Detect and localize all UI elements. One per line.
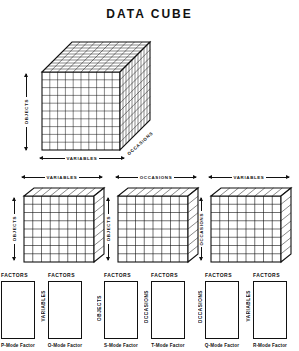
factor-6-header: FACTORS bbox=[253, 272, 280, 278]
factor-2-side-label: VARIABLES bbox=[41, 290, 46, 322]
factor-6-side-label: VARIABLES bbox=[246, 290, 251, 322]
factor-2-header: FACTORS bbox=[48, 272, 75, 278]
slice-panels-graphic bbox=[24, 188, 291, 262]
slice-1-top-axis: VARIABLES bbox=[22, 175, 102, 180]
factor-4-matrix bbox=[151, 281, 185, 339]
slice-3-top-label: VARIABLES bbox=[234, 175, 265, 180]
slice-3-side-axis: OCCASIONS bbox=[199, 198, 204, 260]
factor-1-matrix bbox=[1, 281, 35, 339]
slice-3-top-axis: VARIABLES bbox=[209, 175, 289, 180]
slice-2-top-label: OCCASIONS bbox=[140, 175, 172, 180]
factor-5-side-label: OCCASIONS bbox=[198, 290, 203, 323]
factor-3-side-label: OBJECTS bbox=[97, 295, 102, 321]
factor-6-matrix bbox=[253, 281, 287, 339]
page-title: DATA CUBE bbox=[0, 7, 299, 21]
data-cube-graphic bbox=[42, 42, 150, 150]
slice-2-side-axis: OBJECTS bbox=[106, 198, 111, 260]
factor-4-caption: T-Mode Factor bbox=[146, 343, 190, 348]
factor-2-matrix bbox=[48, 281, 82, 339]
slice-1-side-axis: OBJECTS bbox=[12, 198, 17, 260]
factor-1-caption: P-Mode Factor bbox=[0, 343, 40, 348]
slice-2-top-axis: OCCASIONS bbox=[116, 175, 196, 180]
slice-2-side-label: OBJECTS bbox=[106, 216, 111, 241]
slice-panel-1 bbox=[24, 188, 104, 262]
figure-root: DATA CUBE bbox=[0, 0, 299, 351]
factor-6-caption: R-Mode Factor bbox=[248, 343, 292, 348]
factor-3-caption: S-Mode Factor bbox=[99, 343, 143, 348]
cube-axis-objects: OBJECTS bbox=[24, 74, 29, 150]
slice-3-side-label: OCCASIONS bbox=[199, 213, 204, 245]
factor-4-header: FACTORS bbox=[151, 272, 178, 278]
cube-axis-variables: VARIABLES bbox=[40, 156, 124, 161]
factor-3-header: FACTORS bbox=[104, 272, 131, 278]
slice-panel-3 bbox=[211, 188, 291, 262]
factor-4-side-label: OCCASIONS bbox=[144, 290, 149, 323]
slice-panel-2 bbox=[118, 188, 198, 262]
factor-3-matrix bbox=[104, 281, 138, 339]
slice-1-top-label: VARIABLES bbox=[47, 175, 78, 180]
cube-axis-objects-label: OBJECTS bbox=[24, 99, 29, 124]
factor-5-header: FACTORS bbox=[205, 272, 232, 278]
factor-1-header: FACTORS bbox=[1, 272, 28, 278]
cube-axis-occasions-label: OCCASIONS bbox=[126, 131, 154, 157]
factor-5-matrix bbox=[205, 281, 239, 339]
slice-1-side-label: OBJECTS bbox=[12, 216, 17, 241]
factor-2-caption: O-Mode Factor bbox=[43, 343, 87, 348]
factor-5-caption: Q-Mode Factor bbox=[200, 343, 244, 348]
cube-axis-variables-label: VARIABLES bbox=[67, 156, 98, 161]
